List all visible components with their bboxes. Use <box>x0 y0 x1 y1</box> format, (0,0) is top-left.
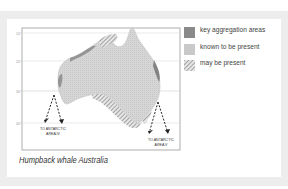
lat-label-2: 20° <box>16 60 22 64</box>
area-iv-label-line2: AREA IV <box>46 132 61 136</box>
legend-label: key aggregation areas <box>200 26 265 33</box>
distribution-map: 10° 20° 30° 40° TO ANTARCTIC AREA IV TO … <box>14 16 184 154</box>
figure-caption: Humpback whale Australia <box>19 156 108 165</box>
lat-label-4: 40° <box>16 122 22 126</box>
hatched-swatch <box>184 60 195 71</box>
known-present-swatch <box>184 44 195 55</box>
lat-label-1: 10° <box>16 32 22 36</box>
area-iv-label-line1: TO ANTARCTIC <box>40 127 66 131</box>
key-aggregation-swatch <box>184 27 195 38</box>
area-v-label-line2: AREA V <box>155 143 169 147</box>
legend-label: known to be present <box>200 43 259 50</box>
area-v-label-line1: TO ANTARCTIC <box>148 138 174 142</box>
legend-label: may be present <box>200 59 245 66</box>
lat-label-3: 30° <box>16 90 22 94</box>
